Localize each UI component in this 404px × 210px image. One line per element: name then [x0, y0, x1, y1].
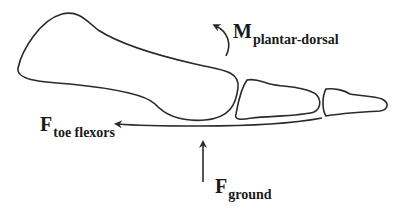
- toe-flexors-label: Ftoe flexors: [40, 113, 115, 136]
- proximal-phalanx-outline: [236, 79, 320, 119]
- toe-flexor-force-arrow: [118, 118, 322, 126]
- ground-label: Fground: [215, 175, 272, 198]
- diagram-drawing: [0, 0, 404, 210]
- distal-phalanx-outline: [323, 89, 387, 116]
- moment-arrow: [216, 26, 229, 56]
- toe-biomechanics-diagram: Mplantar-dorsal Ftoe flexors Fground: [0, 0, 404, 210]
- moment-label: Mplantar-dorsal: [233, 20, 339, 43]
- metatarsal-bone-outline: [18, 13, 238, 120]
